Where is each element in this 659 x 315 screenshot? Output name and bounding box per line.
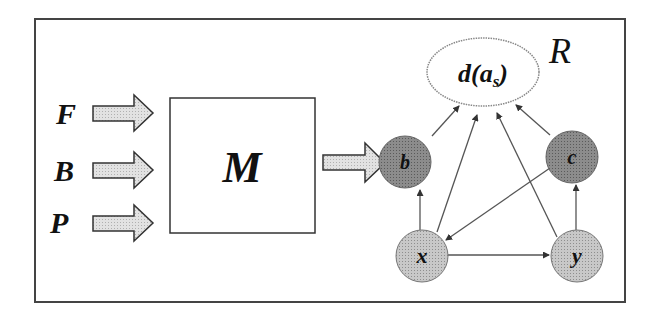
target-label: d(as) (458, 59, 508, 91)
input-label-b: B (53, 154, 74, 187)
node-b: b (379, 136, 431, 188)
node-label-b: b (400, 151, 410, 173)
node-label-c: c (568, 146, 577, 168)
input-label-f: F (55, 97, 76, 130)
node-c: c (546, 131, 598, 183)
input-label-p: P (49, 206, 69, 239)
diagram-canvas: F B P M d(as) R b c x y (0, 0, 659, 315)
node-x: x (396, 230, 448, 282)
node-label-x: x (416, 243, 428, 268)
region-label: R (548, 31, 571, 71)
node-y: y (551, 230, 603, 282)
model-label: M (221, 143, 263, 192)
